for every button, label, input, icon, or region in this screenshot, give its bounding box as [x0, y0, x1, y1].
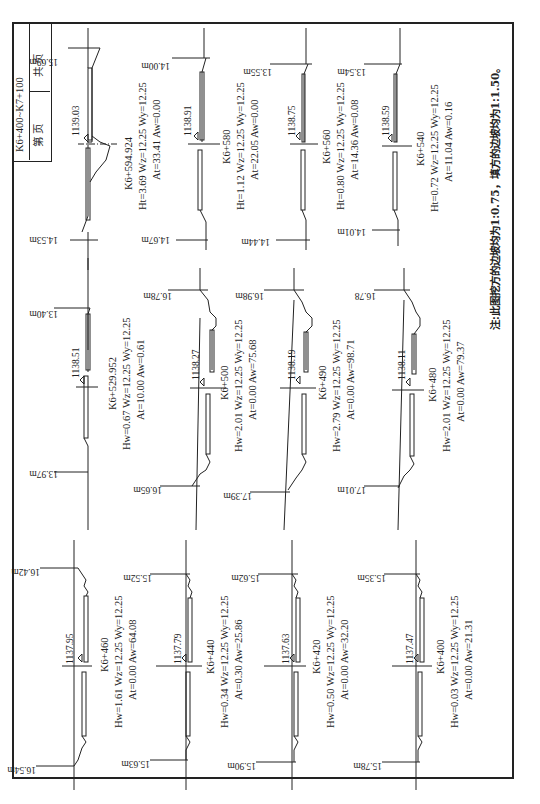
section-areas: At=0.00 Aw=79.37: [456, 341, 467, 422]
station-label: K6+594.924: [124, 137, 135, 190]
right-width-label: 13.40m: [29, 309, 58, 319]
section-areas: At=0.00 Aw=64.08: [128, 619, 139, 700]
design-elevation: 1138.91: [184, 105, 194, 136]
left-width-label: 14.44m: [241, 237, 270, 247]
station-label: K6+490: [318, 365, 329, 400]
section-params: Ht=1.12 Wz=12.25 Wy=12.25: [236, 82, 247, 210]
right-width-label: 15.35m: [357, 573, 386, 583]
station-label: K6+560: [322, 129, 333, 164]
section-params: Hw=0.03 Wz=12.25 Wy=12.25: [450, 595, 461, 728]
design-elevation: 1139.03: [72, 105, 82, 136]
section-params: Ht=0.72 Wz=12.25 Wy=12.25: [430, 84, 441, 212]
right-width-label: 15.52m: [123, 573, 152, 583]
design-elevation: 1137.63: [282, 633, 292, 664]
section-areas: At=0.00 Aw=21.31: [464, 619, 475, 700]
design-elevation: 1138.19: [288, 349, 298, 380]
left-width-label: 14.01m: [337, 227, 366, 237]
left-width-label: 16.65m: [133, 485, 162, 495]
station-label: K6+460: [100, 637, 111, 672]
station-label: K6+580: [222, 129, 233, 164]
design-elevation: 1138.11: [398, 350, 408, 380]
section-k6-580: [172, 28, 220, 250]
right-width-label: 16.78: [355, 291, 376, 301]
section-params: Hw=1.61 Wz=12.25 Wy=12.25: [114, 595, 125, 728]
left-width-label: 14.53m: [29, 235, 58, 245]
right-width-label: 13.55m: [243, 67, 272, 77]
section-params: Ht=3.69 Wz=12.25 Wy=12.25: [138, 82, 149, 210]
section-params: Hw=0.34 Wz=12.25 Wy=12.25: [220, 595, 231, 728]
station-label: K6+400: [436, 639, 447, 674]
section-areas: At=33.41 Aw=0.00: [152, 99, 163, 180]
section-params: Hw=0.50 Wz=12.25 Wy=12.25: [326, 595, 337, 728]
section-k6-400: [382, 540, 432, 790]
left-width-label: 17.01m: [337, 485, 366, 495]
section-k6-594-924: [68, 28, 118, 270]
section-areas: At=0.30 Aw=25.86: [234, 619, 245, 700]
design-elevation: 1138.51: [72, 347, 82, 378]
station-label: K6+529.952: [108, 357, 119, 410]
design-elevation: 1138.75: [288, 105, 298, 136]
section-k6-420: [256, 540, 306, 790]
right-width-label: 14.00m: [141, 61, 170, 71]
design-elevation: 1138.27: [192, 349, 202, 380]
station-label: K6+480: [428, 367, 439, 402]
section-areas: At=22.05 Aw=0.00: [250, 99, 261, 180]
section-areas: At=14.36 Aw=0.08: [350, 99, 361, 180]
section-k6-440: [150, 540, 202, 790]
section-areas: At=0.00 Aw=75.68: [248, 339, 259, 420]
station-label: K6+420: [312, 639, 323, 674]
left-width-label: 15.63m: [121, 759, 150, 769]
section-params: Ht=0.80 Wz=12.25 Wy=12.25: [336, 82, 347, 210]
section-areas: At=11.04 Aw=0.16: [444, 102, 455, 182]
station-label: K6+540: [416, 131, 427, 166]
right-width-label: 15.62m: [231, 573, 260, 583]
left-width-label: 15.78m: [353, 761, 382, 771]
left-width-label: 14.67m: [141, 235, 170, 245]
section-areas: At=0.00 Aw=32.20: [340, 619, 351, 700]
right-width-label: 13.54m: [337, 67, 366, 77]
left-width-label: 16.54m: [7, 765, 36, 775]
left-width-label: 15.90m: [227, 761, 256, 771]
left-width-label: 13.97m: [29, 469, 58, 479]
section-params: Hw=2.01 Wz=12.25 Wy=12.25: [442, 319, 453, 452]
right-width-label: 16.98m: [235, 291, 264, 301]
section-k6-560: [270, 28, 318, 250]
design-elevation: 1137.47: [406, 633, 416, 664]
section-params: Hw=2.01 Wz=12.25 Wy=12.25: [234, 319, 245, 452]
right-width-label: 16.78m: [143, 291, 172, 301]
cross-section-sheet: K6+400~K7+100 共 页 第 页: [0, 0, 540, 804]
right-width-label: 15.69m: [29, 57, 58, 67]
design-elevation: 1137.79: [174, 633, 184, 664]
section-areas: At=0.00 Aw=98.71: [346, 339, 357, 420]
section-areas: At=10.00 Aw=0.61: [136, 339, 147, 420]
section-k6-500: [160, 268, 226, 530]
section-k6-529-952: [54, 258, 98, 530]
slope-note: 注:此图挖方的边坡均为1:0.75，填方的边坡均为1:1.50。: [490, 63, 501, 330]
section-k6-480: [364, 268, 424, 530]
section-k6-460: [36, 540, 92, 790]
section-k6-540: [364, 28, 412, 246]
design-elevation: 1138.59: [382, 105, 392, 136]
section-k6-490: [250, 268, 316, 530]
left-width-label: 17.39m: [223, 491, 252, 501]
section-params: Hw=2.79 Wz=12.25 Wy=12.25: [332, 319, 343, 452]
design-elevation: 1137.95: [66, 633, 76, 664]
section-params: Hw=0.67 Wz=12.25 Wy=12.25: [122, 317, 133, 450]
station-label: K6+500: [220, 365, 231, 400]
station-label: K6+440: [206, 639, 217, 674]
right-width-label: 16.42m: [11, 567, 40, 577]
